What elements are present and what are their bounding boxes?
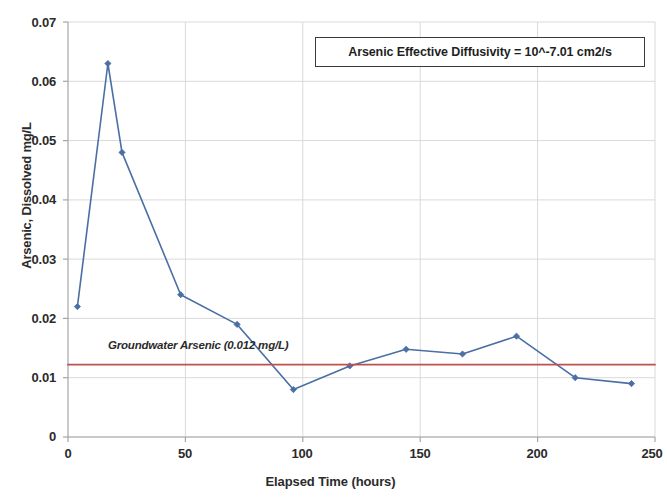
x-tick-2: 100 [272,446,332,461]
x-tick-5: 250 [622,446,667,461]
data-point-marker-8 [459,351,465,357]
x-axis-title: Elapsed Time (hours) [0,474,661,489]
x-tick-1: 50 [155,446,215,461]
y-tick-7: 0 [10,429,56,444]
x-tick-0: 0 [38,446,98,461]
data-point-marker-11 [628,381,634,387]
groundwater-arsenic-label: Groundwater Arsenic (0.012 mg/L) [108,339,288,351]
data-point-marker-1 [105,60,111,66]
x-tick-3: 150 [390,446,450,461]
grid-lines [68,22,655,437]
y-axis-title: Arsenic, Dissolved mg/L [19,66,34,326]
data-point-marker-3 [178,292,184,298]
y-tick-6: 0.01 [10,370,56,385]
y-tick-0: 0.07 [10,15,56,30]
data-point-marker-0 [74,304,80,310]
diffusivity-annotation-box: Arsenic Effective Diffusivity = 10^-7.01… [315,37,645,67]
data-point-marker-6 [347,363,353,369]
x-tick-4: 200 [507,446,567,461]
data-point-marker-2 [119,149,125,155]
data-point-marker-7 [403,346,409,352]
axis-lines [63,22,655,442]
